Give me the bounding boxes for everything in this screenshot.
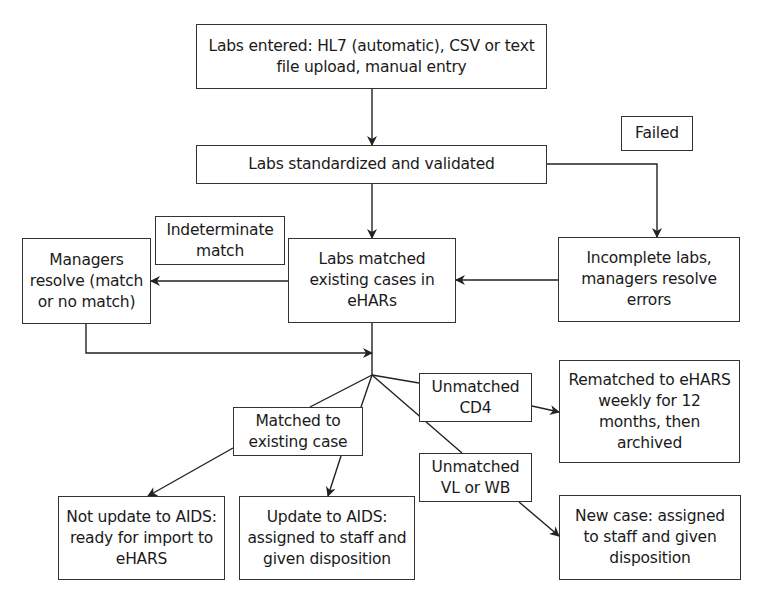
- node-not-update-aids: Not update to AIDS: ready for import to …: [58, 496, 225, 580]
- node-new-case-text: New case: assigned to staff and given di…: [566, 506, 734, 569]
- node-update-aids: Update to AIDS: assigned to staff and gi…: [239, 496, 415, 580]
- label-failed: Failed: [621, 116, 693, 151]
- label-failed-text: Failed: [635, 123, 679, 144]
- flowchart-canvas: Labs entered: HL7 (automatic), CSV or te…: [0, 0, 760, 600]
- node-standardized-text: Labs standardized and validated: [248, 154, 494, 175]
- node-update-aids-text: Update to AIDS: assigned to staff and gi…: [246, 507, 408, 570]
- label-indeterminate: Indeterminate match: [155, 216, 285, 265]
- node-unmatched-vl-wb-text: Unmatched VL or WB: [426, 457, 525, 499]
- node-labs-matched-text: Labs matched existing cases in eHARs: [295, 249, 449, 312]
- node-matched-existing-text: Matched to existing case: [240, 411, 356, 453]
- node-labs-entered: Labs entered: HL7 (automatic), CSV or te…: [196, 24, 547, 89]
- node-labs-entered-text: Labs entered: HL7 (automatic), CSV or te…: [203, 36, 540, 78]
- node-standardized: Labs standardized and validated: [196, 145, 547, 184]
- label-indeterminate-text: Indeterminate match: [162, 220, 278, 262]
- node-incomplete: Incomplete labs, managers resolve errors: [558, 237, 740, 322]
- node-rematched: Rematched to eHARS weekly for 12 months,…: [559, 360, 740, 463]
- edge-managers-to-branch: [86, 324, 372, 353]
- node-unmatched-cd4-text: Unmatched CD4: [426, 377, 525, 419]
- node-managers-resolve: Managers resolve (match or no match): [22, 238, 151, 324]
- node-matched-existing: Matched to existing case: [233, 407, 363, 456]
- node-unmatched-cd4: Unmatched CD4: [419, 373, 532, 422]
- node-managers-resolve-text: Managers resolve (match or no match): [29, 250, 144, 313]
- node-rematched-text: Rematched to eHARS weekly for 12 months,…: [566, 370, 733, 454]
- node-incomplete-text: Incomplete labs, managers resolve errors: [565, 248, 733, 311]
- edge-vl-wb-to-new-case: [519, 502, 559, 536]
- edge-standardized-to-incomplete: [547, 164, 657, 237]
- node-new-case: New case: assigned to staff and given di…: [559, 495, 741, 580]
- edge-cd4-to-rematched: [532, 406, 559, 412]
- node-not-update-aids-text: Not update to AIDS: ready for import to …: [65, 507, 218, 570]
- node-unmatched-vl-wb: Unmatched VL or WB: [419, 453, 532, 502]
- edge-matched-existing-to-update: [328, 456, 341, 496]
- node-labs-matched: Labs matched existing cases in eHARs: [288, 238, 456, 323]
- edge-matched-existing-to-not-update: [148, 448, 233, 496]
